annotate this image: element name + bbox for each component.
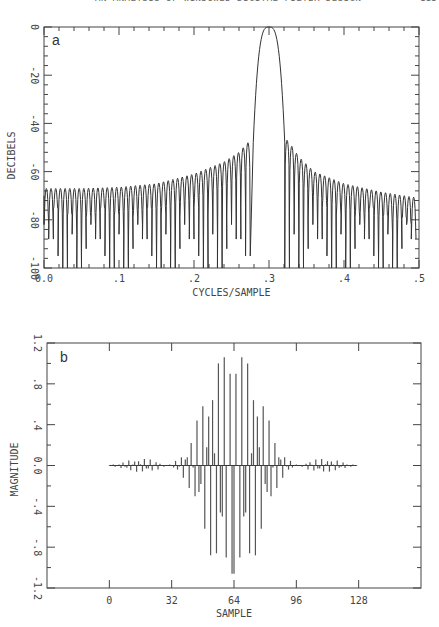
panel-label-a: a — [52, 32, 60, 48]
x-axis-title-b: SAMPLE — [216, 608, 252, 619]
y-tick-labels-b: 1.2.8.40.0-.4-.8-1.2 — [32, 334, 43, 600]
x-tick-label: 0 — [106, 595, 112, 606]
y-tick-label: -80 — [29, 211, 40, 229]
y-tick-label: 0 — [29, 24, 40, 30]
panel-b-impulse-response: 1.2.8.40.0-.4-.8-1.2 0326496128 b SAMPLE… — [9, 334, 421, 619]
y-axis-title-b: MAGNITUDE — [9, 442, 20, 496]
x-tick-labels-b: 0326496128 — [106, 595, 367, 606]
y-tick-labels-a: 0-20-40-60-80-100 — [29, 24, 40, 280]
panel-label-b: b — [60, 349, 68, 365]
frequency-response-curve — [44, 27, 416, 268]
x-tick-label: .1 — [113, 273, 125, 284]
y-tick-label: .4 — [32, 419, 43, 431]
y-tick-label: -.4 — [32, 497, 43, 515]
y-tick-label: -1.2 — [32, 576, 43, 600]
y-tick-label: -20 — [29, 66, 40, 84]
x-tick-label: 0.0 — [35, 273, 53, 284]
y-tick-label: -60 — [29, 163, 40, 181]
x-axis-title-a: CYCLES/SAMPLE — [192, 287, 270, 298]
y-tick-label: -40 — [29, 114, 40, 132]
x-tick-label: .2 — [188, 273, 200, 284]
x-tick-labels-a: 0.0.1.2.3.4.5 — [35, 273, 425, 284]
x-tick-label: 128 — [350, 595, 368, 606]
x-tick-label: 32 — [166, 595, 178, 606]
panel-a-frequency-response: 0-20-40-60-80-100 0.0.1.2.3.4.5 a CYCLES… — [6, 24, 425, 298]
x-tick-label: .4 — [338, 273, 350, 284]
y-tick-label: 1.2 — [32, 334, 43, 352]
x-tick-label: .3 — [263, 273, 275, 284]
y-axis-title-a: DECIBELS — [6, 131, 17, 179]
x-tick-label: 96 — [290, 595, 302, 606]
x-tick-label: 64 — [228, 595, 240, 606]
y-tick-label: -.8 — [32, 538, 43, 556]
figure: 0-20-40-60-80-100 0.0.1.2.3.4.5 a CYCLES… — [0, 0, 439, 627]
x-tick-label: .5 — [413, 273, 425, 284]
y-tick-label: 0.0 — [32, 456, 43, 474]
y-tick-label: .8 — [32, 378, 43, 390]
